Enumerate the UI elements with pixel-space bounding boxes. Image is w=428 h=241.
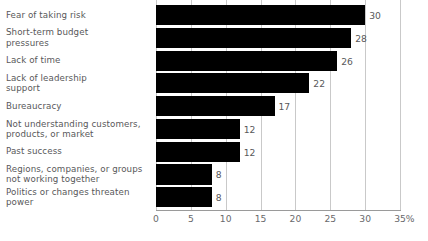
x-tick-label-35: 35 (394, 213, 406, 224)
bar (156, 5, 365, 25)
bar (156, 73, 309, 93)
bar-row: 22 (156, 73, 400, 93)
bar-row: 26 (156, 51, 400, 71)
bar-row: 8 (156, 164, 400, 184)
x-tick-label-0: 0 (153, 213, 159, 224)
category-label: Regions, companies, or groups not workin… (6, 164, 150, 184)
bar (156, 51, 337, 71)
bar (156, 96, 275, 116)
bar-value-label: 17 (279, 101, 291, 112)
bar-value-label: 12 (244, 146, 256, 157)
category-label: Lack of leadership support (6, 73, 150, 93)
bar (156, 28, 351, 48)
gridline-35 (400, 0, 401, 211)
x-tick-label-10: 10 (220, 213, 232, 224)
bar-row: 12 (156, 119, 400, 139)
bar-value-label: 28 (355, 32, 367, 43)
bar (156, 164, 212, 184)
axis-unit-label: % (406, 213, 415, 224)
x-tick-label-20: 20 (290, 213, 302, 224)
bar (156, 142, 240, 162)
horizontal-bar-chart: Fear of taking riskShort-term budget pre… (0, 0, 428, 241)
category-axis: Fear of taking riskShort-term budget pre… (0, 0, 150, 211)
bar-value-label: 12 (244, 123, 256, 134)
category-label: Lack of time (6, 51, 150, 71)
bar-row: 12 (156, 142, 400, 162)
x-tick-label-15: 15 (255, 213, 267, 224)
value-axis: % 05101520253035 (0, 213, 428, 233)
bar (156, 119, 240, 139)
bar (156, 187, 212, 207)
plot-area: 3028262217121288 (156, 0, 400, 211)
category-label: Not understanding customers, products, o… (6, 119, 150, 139)
x-tick-label-25: 25 (324, 213, 336, 224)
category-label: Politics or changes threaten power (6, 187, 150, 207)
bar-value-label: 30 (369, 10, 381, 21)
bar-row: 8 (156, 187, 400, 207)
bar-value-label: 22 (313, 78, 325, 89)
bar-value-label: 8 (216, 192, 222, 203)
bar-value-label: 26 (341, 55, 353, 66)
bar-value-label: 8 (216, 169, 222, 180)
axis-baseline (156, 210, 401, 211)
x-tick-label-5: 5 (188, 213, 194, 224)
category-label: Short-term budget pressures (6, 28, 150, 48)
x-tick-label-30: 30 (359, 213, 371, 224)
category-label: Fear of taking risk (6, 5, 150, 25)
category-label: Past success (6, 142, 150, 162)
bar-row: 17 (156, 96, 400, 116)
bar-row: 30 (156, 5, 400, 25)
bar-row: 28 (156, 28, 400, 48)
category-label: Bureaucracy (6, 96, 150, 116)
